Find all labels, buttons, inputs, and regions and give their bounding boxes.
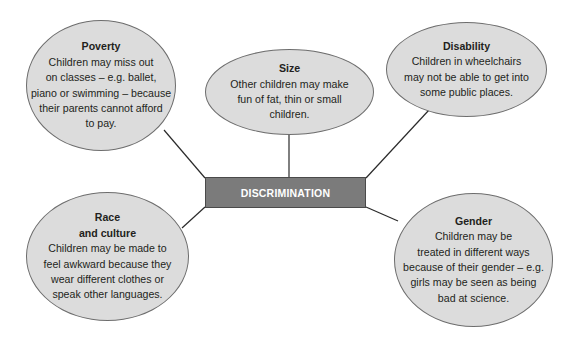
node-body: Children may be treated in different way… — [403, 229, 544, 306]
node-title: Race and culture — [79, 210, 136, 241]
node-disability: Disability Children in wheelchairs may n… — [386, 22, 547, 117]
node-race-culture: Race and culture Children may be made to… — [26, 192, 189, 321]
center-node-discrimination: DISCRIMINATION — [205, 177, 366, 208]
connector-disability — [366, 110, 429, 178]
node-title: Poverty — [82, 39, 121, 54]
connector-gender — [366, 207, 398, 221]
node-size: Size Other children may make fun of fat,… — [205, 49, 374, 135]
node-title: Size — [279, 61, 300, 76]
center-label: DISCRIMINATION — [241, 187, 331, 199]
node-body: Other children may make fun of fat, thin… — [230, 77, 348, 123]
connector-poverty — [164, 130, 205, 178]
node-poverty: Poverty Children may miss out on classes… — [26, 20, 176, 151]
connector-race-culture — [182, 207, 205, 228]
node-body: Children may miss out on classes – e.g. … — [31, 55, 171, 132]
node-body: Children in wheelchairs may not be able … — [404, 54, 529, 100]
node-title: Gender — [455, 214, 492, 229]
node-title: Disability — [443, 39, 490, 54]
node-body: Children may be made to feel awkward bec… — [44, 241, 172, 303]
node-gender: Gender Children may be treated in differ… — [394, 193, 553, 327]
